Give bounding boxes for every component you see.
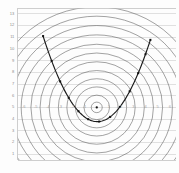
y-axis-tick-label: 6 — [2, 94, 14, 98]
x-axis-tick-label: 3 — [129, 105, 138, 109]
x-axis-tick-label: 2 — [117, 105, 126, 109]
x-axis-tick-label: -3 — [56, 105, 65, 109]
x-axis-tick-label: -6 — [19, 105, 28, 109]
y-axis-tick-label: 2 — [2, 140, 14, 144]
x-axis-tick-label: 4 — [141, 105, 150, 109]
y-axis-tick-label: 12 — [2, 23, 14, 27]
y-axis-tick-label: 4 — [2, 117, 14, 121]
x-axis-tick-label: -2 — [68, 105, 77, 109]
y-axis-tick-label: 8 — [2, 70, 14, 74]
x-axis-tick-label: -5 — [31, 105, 40, 109]
plot-canvas — [0, 0, 179, 173]
y-axis-tick-label: 3 — [2, 129, 14, 133]
x-axis-tick-label: 5 — [153, 105, 162, 109]
y-axis-tick-label: 1 — [2, 152, 14, 156]
y-axis-tick-label: 7 — [2, 82, 14, 86]
y-axis-tick-label: 11 — [2, 35, 14, 39]
y-axis-tick-label: 10 — [2, 47, 14, 51]
y-axis-tick-label: 13 — [2, 12, 14, 16]
y-axis-tick-label: 5 — [2, 105, 14, 109]
contour-plot-figure: 13121110987654321-6-5-4-3-2-1123456 — [0, 0, 179, 173]
x-axis-tick-label: -4 — [43, 105, 52, 109]
x-axis-tick-label: -1 — [80, 105, 89, 109]
x-axis-tick-label: 6 — [165, 105, 174, 109]
y-axis-tick-label: 9 — [2, 59, 14, 63]
x-axis-tick-label: 1 — [104, 105, 113, 109]
